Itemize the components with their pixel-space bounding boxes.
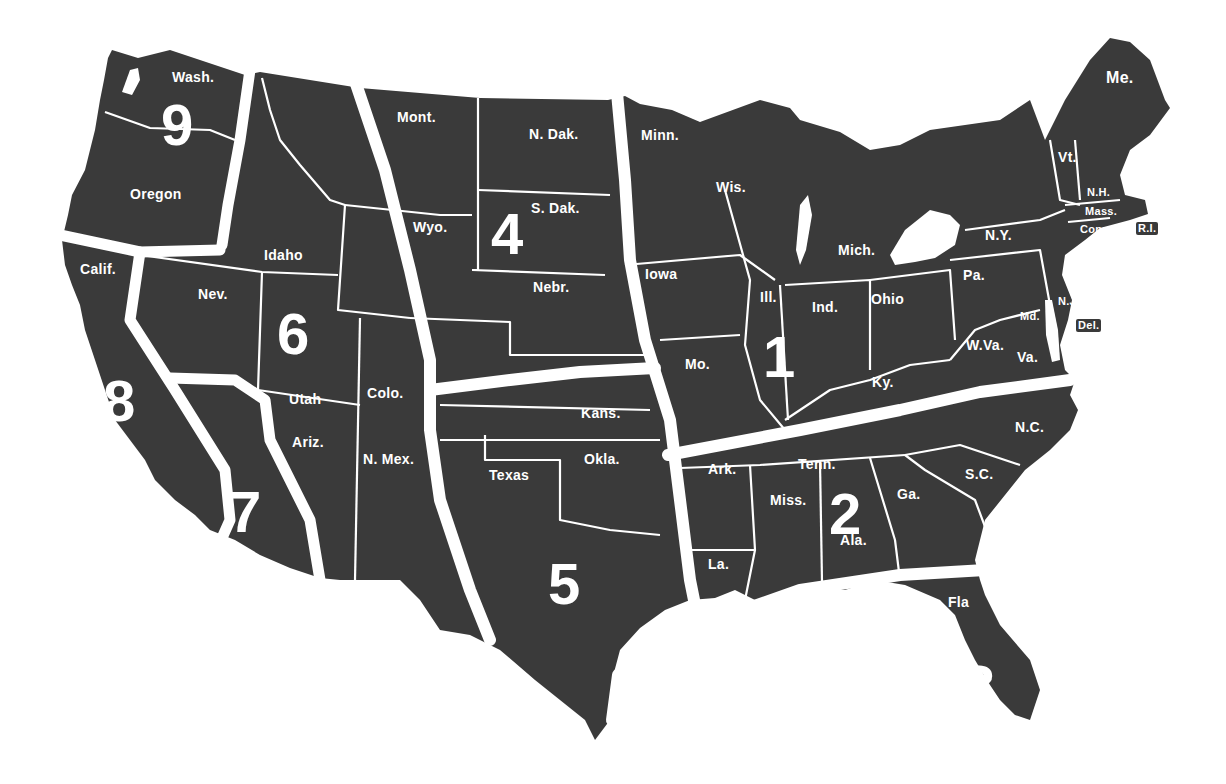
- state-label: Iowa: [645, 267, 677, 281]
- region-number-9: 9: [161, 96, 193, 154]
- state-label: Kans.: [581, 406, 621, 420]
- region-number-8: 8: [103, 372, 135, 430]
- state-label: Ark.: [708, 462, 736, 476]
- state-label: Va.: [1017, 350, 1038, 364]
- state-label: N. Mex.: [363, 452, 414, 466]
- state-label: Oregon: [130, 187, 182, 201]
- state-label: S.C.: [965, 467, 993, 481]
- region-number-4: 4: [491, 205, 523, 263]
- state-label: Fla: [948, 595, 969, 609]
- state-label: N.J.: [1058, 296, 1079, 307]
- state-label: Ariz.: [292, 435, 324, 449]
- state-label: N.Y.: [985, 228, 1012, 242]
- state-label: Idaho: [264, 248, 303, 262]
- state-label: N. Dak.: [529, 127, 579, 141]
- state-label: Utah: [289, 392, 321, 406]
- state-label: Colo.: [367, 386, 404, 400]
- state-label: Okla.: [584, 452, 620, 466]
- state-label: Conn.: [1080, 224, 1113, 235]
- state-label: N.H.: [1087, 187, 1110, 198]
- state-label: Ill.: [760, 290, 777, 304]
- state-label: Mo.: [685, 357, 710, 371]
- state-label: Me.: [1106, 70, 1134, 86]
- state-label: Pa.: [963, 268, 985, 282]
- state-label: Tenn.: [798, 457, 836, 471]
- state-label: Texas: [489, 468, 529, 482]
- region-number-1: 1: [763, 328, 795, 386]
- state-label: Minn.: [641, 128, 679, 142]
- state-label: Wash.: [172, 70, 214, 84]
- state-label: Calif.: [80, 262, 116, 276]
- region-number-6: 6: [277, 305, 309, 363]
- state-label: R.I.: [1136, 222, 1158, 235]
- state-label: Nebr.: [533, 280, 570, 294]
- state-label: Md.: [1020, 311, 1040, 322]
- state-label: Wis.: [716, 180, 746, 194]
- state-label: Ala.: [840, 533, 867, 547]
- region-number-7: 7: [229, 483, 261, 541]
- state-label: Mont.: [397, 110, 436, 124]
- state-label: N.C.: [1015, 420, 1044, 434]
- state-label: Mich.: [838, 243, 875, 257]
- state-label: La.: [708, 557, 729, 571]
- state-label: Ohio: [871, 292, 904, 306]
- state-label: S. Dak.: [531, 201, 580, 215]
- state-label: Vt.: [1058, 150, 1077, 164]
- state-label: Miss.: [770, 493, 807, 507]
- state-label: Ind.: [812, 300, 838, 314]
- state-label: W.Va.: [966, 338, 1004, 352]
- state-label: Ky.: [872, 375, 894, 389]
- region-number-5: 5: [548, 555, 580, 613]
- state-label: Wyo.: [413, 220, 447, 234]
- state-label: Del.: [1076, 319, 1101, 332]
- state-label: Mass.: [1085, 206, 1117, 217]
- state-label: Ga.: [897, 487, 920, 501]
- state-label: Nev.: [198, 287, 228, 301]
- region-number-3: 3: [963, 657, 995, 715]
